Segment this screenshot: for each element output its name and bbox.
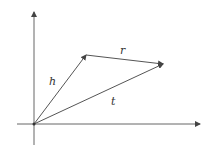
label-t: t <box>111 95 116 108</box>
vector-t <box>34 64 163 124</box>
origin-point <box>33 123 36 126</box>
label-h: h <box>49 75 56 88</box>
label-r: r <box>120 44 126 57</box>
vector-h <box>34 55 86 124</box>
vector-diagram: h r t <box>0 0 213 158</box>
